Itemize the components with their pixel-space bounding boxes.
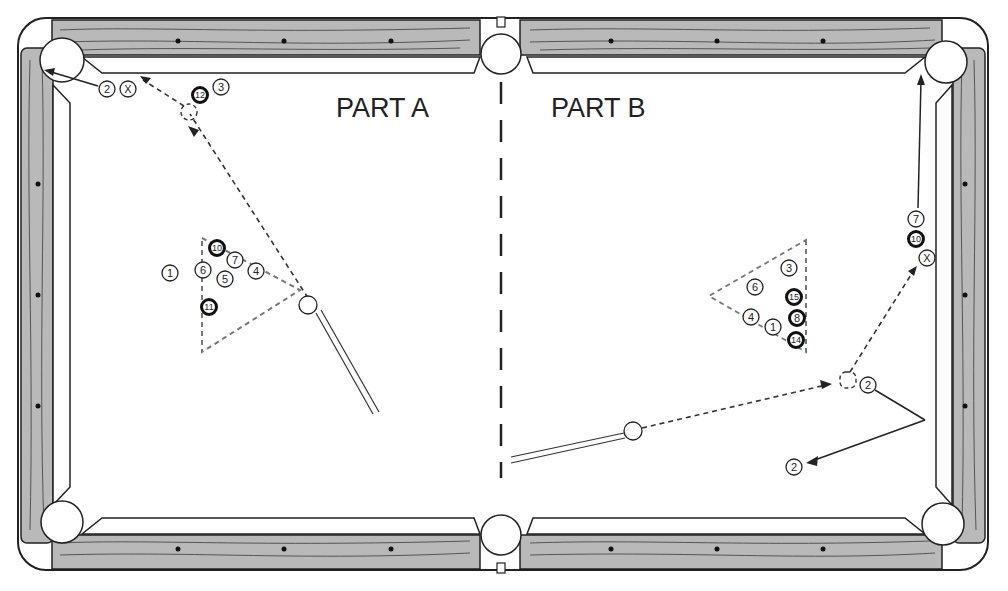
svg-text:11: 11 xyxy=(204,302,213,312)
pocket-top-middle xyxy=(481,34,521,74)
svg-text:4: 4 xyxy=(748,311,754,323)
svg-text:14: 14 xyxy=(791,335,801,345)
ball: 3 xyxy=(213,79,229,95)
pool-table-diagram: PART A PART B 2 X 12 3 10 xyxy=(0,0,1008,591)
ball: 6 xyxy=(195,262,211,278)
ball: 4 xyxy=(743,309,759,325)
ball: 2 xyxy=(786,459,802,475)
cue-ball-part-b xyxy=(624,422,642,440)
svg-text:6: 6 xyxy=(752,281,758,293)
svg-text:4: 4 xyxy=(253,265,259,277)
svg-text:12: 12 xyxy=(195,90,205,100)
bottom-cushion-left xyxy=(82,518,480,534)
svg-text:5: 5 xyxy=(222,273,228,285)
top-cushion-right xyxy=(527,57,925,73)
svg-text:1: 1 xyxy=(167,267,173,279)
pocket-top-right xyxy=(925,41,967,83)
part-b-label: PART B xyxy=(551,93,646,123)
ball: 14 xyxy=(789,333,804,348)
ball: 11 xyxy=(202,300,217,315)
svg-text:X: X xyxy=(124,83,132,95)
ball: 3 xyxy=(781,260,797,276)
svg-text:2: 2 xyxy=(104,83,110,95)
svg-text:7: 7 xyxy=(232,254,238,266)
ball: 6 xyxy=(747,279,763,295)
ball: 12 xyxy=(193,88,208,103)
svg-text:3: 3 xyxy=(218,81,224,93)
svg-text:2: 2 xyxy=(865,379,871,391)
top-cushion-left xyxy=(82,57,480,73)
svg-text:X: X xyxy=(923,252,931,264)
ball: 15 xyxy=(787,290,802,305)
ball: 10 xyxy=(210,241,225,256)
left-cushion xyxy=(53,85,70,505)
table-frame xyxy=(18,18,988,570)
ball: 1 xyxy=(765,319,781,335)
svg-text:1: 1 xyxy=(770,321,776,333)
left-rail xyxy=(21,48,53,543)
ball: 1 xyxy=(162,265,178,281)
ball: 5 xyxy=(217,271,233,287)
svg-text:8: 8 xyxy=(794,312,800,324)
svg-text:3: 3 xyxy=(786,262,792,274)
svg-text:6: 6 xyxy=(200,264,206,276)
svg-text:10: 10 xyxy=(911,234,921,244)
svg-text:7: 7 xyxy=(913,213,919,225)
ball: 10 xyxy=(909,232,924,247)
right-rail xyxy=(953,48,985,543)
pocket-bottom-right xyxy=(922,503,964,545)
ball: 4 xyxy=(248,263,264,279)
ball: 8 xyxy=(790,311,805,326)
part-a-label: PART A xyxy=(336,93,429,123)
ball: 2 xyxy=(99,81,115,97)
ball: X xyxy=(919,250,935,266)
bottom-cushion-right xyxy=(527,518,925,534)
right-cushion xyxy=(936,85,952,505)
svg-text:10: 10 xyxy=(212,243,222,253)
ball: 2 xyxy=(860,377,876,393)
svg-text:15: 15 xyxy=(789,292,799,302)
cue-ball-part-a xyxy=(299,296,317,314)
ball: X xyxy=(120,81,136,97)
ball: 7 xyxy=(227,252,243,268)
pocket-bottom-left xyxy=(41,501,83,543)
svg-text:2: 2 xyxy=(791,461,797,473)
pocket-bottom-middle xyxy=(481,515,521,555)
ball: 7 xyxy=(908,211,924,227)
